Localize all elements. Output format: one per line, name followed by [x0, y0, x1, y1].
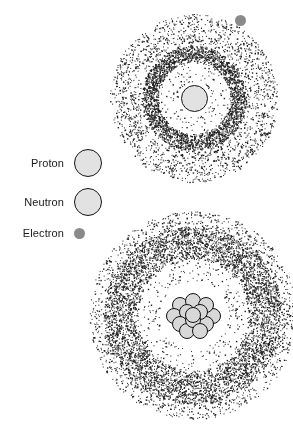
neutron-icon	[74, 188, 102, 216]
hydrogen-nucleus-proton	[181, 85, 208, 112]
proton-icon	[74, 149, 102, 177]
electron-icon	[74, 228, 85, 239]
nucleon	[192, 323, 208, 339]
legend-item-electron: Electron	[8, 227, 108, 239]
legend-item-proton: Proton	[8, 149, 108, 177]
legend-item-neutron: Neutron	[8, 188, 108, 216]
free-electron-particle	[235, 15, 246, 26]
legend-label-electron: Electron	[8, 227, 64, 239]
legend-label-proton: Proton	[8, 157, 64, 169]
atomic-structure-diagram: Proton Neutron Electron	[0, 0, 293, 428]
legend-label-neutron: Neutron	[8, 196, 64, 208]
nucleon	[185, 307, 201, 323]
